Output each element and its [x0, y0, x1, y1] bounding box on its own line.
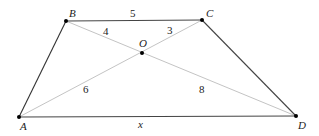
label-o: O [139, 37, 147, 49]
side-ad [19, 116, 296, 117]
label-ad-length: x [137, 118, 143, 130]
label-od-length: 8 [199, 83, 205, 95]
point-d [294, 114, 298, 118]
label-bo-length: 4 [103, 25, 109, 37]
point-o [140, 51, 144, 55]
trapezoid-diagram: B C O A D 5 4 3 6 8 x [0, 0, 319, 136]
side-bc [66, 20, 202, 21]
diagonal-bd [66, 21, 296, 116]
point-c [200, 18, 204, 22]
label-d: D [297, 119, 306, 131]
diagonal-ac [19, 20, 202, 117]
side-ab [19, 21, 66, 117]
point-a [17, 115, 21, 119]
label-a: A [19, 120, 27, 132]
label-bc-length: 5 [130, 7, 136, 19]
label-c: C [206, 7, 214, 19]
point-b [64, 19, 68, 23]
label-oc-length: 3 [167, 24, 173, 36]
label-b: B [69, 7, 76, 19]
side-cd [202, 20, 296, 116]
label-ao-length: 6 [83, 83, 89, 95]
